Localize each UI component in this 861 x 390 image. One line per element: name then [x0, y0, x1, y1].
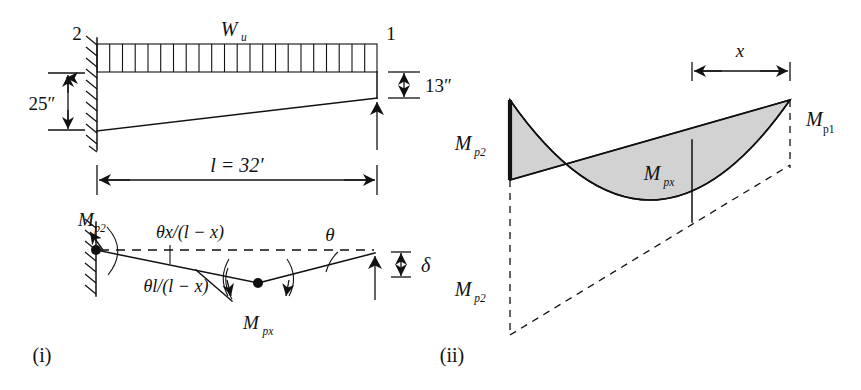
distributed-load-block — [97, 44, 377, 72]
rotation-right-label: θ — [325, 224, 334, 245]
angle-arc-right — [326, 252, 338, 272]
bending-moment-diagram: M p2 M p2 M p1 M px x — [454, 40, 835, 335]
rotation-top-label: θx/(l − x) — [156, 222, 224, 243]
beam-load-diagram: 2 1 W u 25″ 13″ l = 32′ — [29, 18, 452, 195]
deflection-dimension — [391, 252, 411, 277]
mp1-label-main: M — [805, 108, 824, 130]
wall-hatching — [86, 36, 97, 152]
mpx-label-main: M — [643, 162, 662, 184]
depth-left-label: 25″ — [29, 93, 56, 114]
load-division-ticks — [110, 44, 365, 72]
udl-label-main: W — [221, 18, 240, 40]
mp1-label-sub: p1 — [823, 123, 835, 136]
figure-root: 2 1 W u 25″ 13″ l = 32′ — [0, 0, 861, 390]
tapered-beam-soffit — [97, 72, 377, 131]
caption-panel-i: (i) — [33, 344, 52, 367]
deflection-label: δ — [421, 254, 431, 276]
node-label-1: 1 — [386, 23, 396, 44]
moment-arrow-mpx-right — [286, 280, 289, 296]
mp2-upper-label-sub: p2 — [473, 146, 486, 159]
moment-arc-mp2 — [107, 227, 118, 275]
hinge-support-node — [91, 245, 101, 255]
mp2-upper-label-main: M — [454, 132, 473, 154]
depth-right-dimension — [388, 72, 420, 98]
mechanism-mp2-label-sub: p2 — [93, 222, 106, 235]
mechanism-mpx-label-main: M — [242, 312, 260, 333]
node-label-2: 2 — [72, 23, 82, 44]
mechanism-segment-right — [258, 253, 375, 283]
mpx-label-sub: px — [663, 176, 676, 189]
depth-right-label: 13″ — [425, 75, 452, 96]
x-dimension-label: x — [735, 40, 745, 61]
hinge-span-node — [253, 278, 263, 288]
mp2-lower-label-sub: p2 — [473, 292, 486, 305]
mechanism-mpx-label-sub: px — [262, 325, 275, 338]
udl-label-sub: u — [241, 31, 247, 43]
span-label: l = 32′ — [210, 154, 264, 176]
mp2-lower-label-main: M — [454, 278, 473, 300]
mechanism-diagram: M p2 θx/(l − x) θl/(l − x) θ M px δ — [77, 209, 431, 338]
mechanism-mp2-label-main: M — [77, 209, 95, 230]
figure-canvas: 2 1 W u 25″ 13″ l = 32′ — [0, 0, 861, 390]
x-dimension — [692, 62, 790, 81]
fixed-support-wall — [86, 36, 97, 152]
rotation-bottom-label: θl/(l − x) — [144, 276, 209, 297]
caption-panel-ii: (ii) — [440, 344, 464, 367]
moment-arc-mpx-right — [287, 259, 294, 296]
